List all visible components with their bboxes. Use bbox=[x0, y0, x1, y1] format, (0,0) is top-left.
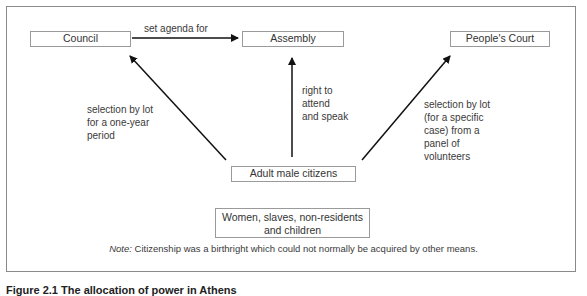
note-prefix: Note: bbox=[109, 243, 132, 254]
node-adult-male-citizens: Adult male citizens bbox=[231, 166, 356, 182]
node-council: Council bbox=[30, 31, 131, 47]
label-set-agenda: set agenda for bbox=[144, 22, 208, 35]
label-assembly-right: right to attend and speak bbox=[302, 84, 348, 123]
node-adult-male-citizens-label: Adult male citizens bbox=[250, 167, 338, 179]
node-excluded-line2: and children bbox=[216, 224, 369, 237]
diagram-note: Note: Citizenship was a birthright which… bbox=[0, 243, 587, 254]
node-excluded-line1: Women, slaves, non-residents bbox=[216, 211, 369, 224]
label-council-selection: selection by lot for a one-year period bbox=[87, 103, 153, 142]
node-excluded-groups: Women, slaves, non-residents and childre… bbox=[215, 208, 370, 238]
note-text: Citizenship was a birthright which could… bbox=[132, 243, 478, 254]
node-council-label: Council bbox=[63, 32, 98, 44]
figure-caption: Figure 2.1 The allocation of power in At… bbox=[6, 284, 237, 296]
node-assembly-label: Assembly bbox=[270, 32, 316, 44]
node-peoples-court: People's Court bbox=[450, 31, 550, 47]
node-assembly: Assembly bbox=[242, 31, 344, 47]
label-court-selection: selection by lot (for a specific case) f… bbox=[424, 98, 490, 163]
node-peoples-court-label: People's Court bbox=[466, 32, 535, 44]
